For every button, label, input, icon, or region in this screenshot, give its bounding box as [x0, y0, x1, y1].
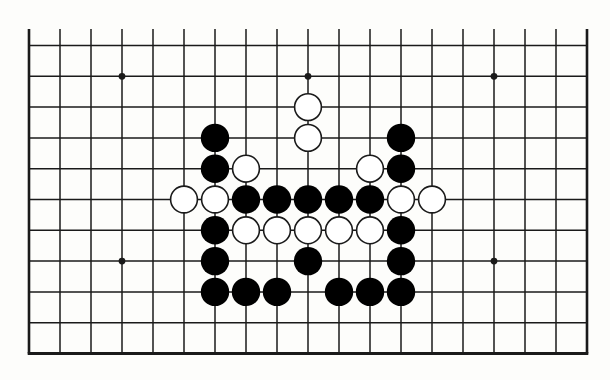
- black-stone-icon: [201, 155, 229, 183]
- white-stone-icon: [171, 186, 198, 213]
- white-stone-icon: [295, 217, 322, 244]
- black-stone-icon: [201, 278, 229, 306]
- star-point-icon: [491, 73, 498, 80]
- black-stone-icon: [232, 278, 260, 306]
- black-stone-icon: [201, 124, 229, 152]
- star-point-icon: [119, 73, 126, 80]
- black-stone-icon: [294, 247, 322, 275]
- black-stone-icon: [325, 278, 353, 306]
- go-board: [0, 0, 610, 380]
- star-point-icon: [119, 258, 126, 265]
- white-stone-icon: [233, 217, 260, 244]
- star-point-icon: [491, 258, 498, 265]
- black-stone-icon: [325, 185, 353, 213]
- black-stone-icon: [201, 216, 229, 244]
- black-stone-icon: [387, 247, 415, 275]
- white-stone-icon: [295, 94, 322, 121]
- black-stone-icon: [263, 278, 291, 306]
- black-stone-icon: [356, 278, 384, 306]
- black-stone-icon: [387, 216, 415, 244]
- white-stone-icon: [233, 155, 260, 182]
- white-stone-icon: [388, 186, 415, 213]
- star-point-icon: [305, 73, 312, 80]
- white-stone-icon: [264, 217, 291, 244]
- black-stone-icon: [387, 155, 415, 183]
- black-stone-icon: [356, 185, 384, 213]
- black-stone-icon: [263, 185, 291, 213]
- black-stone-icon: [387, 278, 415, 306]
- white-stone-icon: [202, 186, 229, 213]
- white-stone-icon: [357, 217, 384, 244]
- black-stone-icon: [232, 185, 260, 213]
- white-stone-icon: [295, 124, 322, 151]
- black-stone-icon: [387, 124, 415, 152]
- stones-layer: [171, 94, 446, 306]
- black-stone-icon: [294, 185, 322, 213]
- white-stone-icon: [326, 217, 353, 244]
- white-stone-icon: [419, 186, 446, 213]
- white-stone-icon: [357, 155, 384, 182]
- black-stone-icon: [201, 247, 229, 275]
